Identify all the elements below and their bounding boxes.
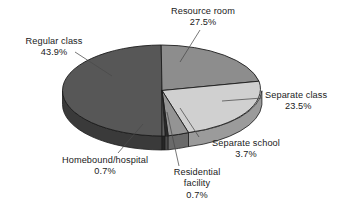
slice-label-regular-class-name: Regular class: [26, 36, 83, 46]
slice-label-separate-school-pct: 3.7%: [193, 149, 299, 160]
pie-chart-figure: Resource room 27.5% Regular class 43.9% …: [0, 0, 350, 218]
slice-label-resource-room: Resource room 27.5%: [148, 6, 258, 29]
slice-label-homebound-hospital-name: Homebound/hospital: [62, 155, 148, 165]
slice-label-separate-class: Separate class 23.5%: [265, 90, 349, 113]
slice-label-regular-class: Regular class 43.9%: [2, 36, 106, 59]
slice-label-separate-class-name: Separate class: [265, 90, 327, 100]
slice-side-residential-facility: [165, 136, 168, 150]
slice-label-residential-facility-line1: Residential: [174, 167, 221, 177]
slice-label-separate-class-pct: 23.5%: [285, 101, 349, 112]
slice-label-homebound-hospital: Homebound/hospital 0.7%: [44, 155, 166, 178]
figure-footer-note: [186, 206, 350, 216]
slice-label-resource-room-pct: 27.5%: [148, 17, 258, 28]
slice-label-residential-facility-pct: 0.7%: [150, 190, 244, 201]
slice-label-residential-facility-line2: facility: [150, 178, 244, 189]
slice-label-separate-school-name: Separate school: [212, 138, 280, 148]
slice-label-regular-class-pct: 43.9%: [2, 47, 106, 58]
slice-label-resource-room-name: Resource room: [171, 6, 235, 16]
slice-label-residential-facility: Residential facility 0.7%: [150, 167, 244, 201]
slice-label-homebound-hospital-pct: 0.7%: [44, 166, 166, 177]
slice-side-homebound-hospital: [162, 136, 165, 150]
slice-label-separate-school: Separate school 3.7%: [193, 138, 299, 161]
